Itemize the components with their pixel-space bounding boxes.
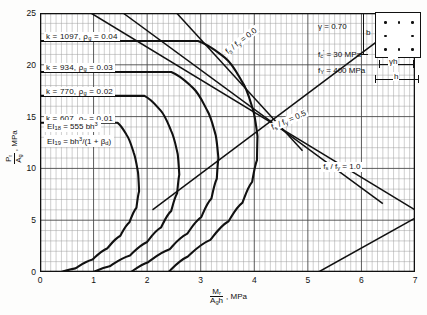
ei-19-rhs: = bh — [63, 137, 79, 146]
x-num-symbol: M — [212, 287, 219, 296]
gamma-value: = 0.70 — [324, 22, 346, 31]
ei-19-annotation: EI19 = bh3/(1 + βd) — [44, 135, 114, 147]
x-tick-label: 0 — [28, 276, 52, 284]
k-label-004: k = 1097, ρg = 0.04 — [44, 32, 120, 41]
k-equation: k = 1097, — [46, 32, 81, 41]
legend-panel: γ = 0.70 fc' = 30 MPa fY = 400 MPa b γh … — [318, 6, 423, 84]
b-dimension-line — [363, 13, 364, 55]
fy-slash: / f — [328, 162, 337, 171]
k-label-003: k = 934, ρg = 0.03 — [44, 63, 115, 72]
y-axis-title: Pr Ag , MPa — [0, 118, 34, 178]
y-tick-label: 20 — [10, 61, 36, 69]
x-axis-ticks: 01234567 — [40, 276, 415, 288]
ei-19-lhs: EI — [47, 137, 55, 146]
legend-fy-row: fY = 400 MPa — [318, 66, 365, 75]
x-den-tail: h — [219, 296, 223, 305]
rho-value: = 0.04 — [92, 32, 118, 41]
gamma-h-label: γh — [388, 57, 398, 66]
ei-19-tail: /(1 + — [82, 137, 100, 146]
rebar-dot — [384, 35, 387, 38]
x-tick-label: 7 — [403, 276, 427, 284]
k-label-002: k = 770, ρg = 0.02 — [44, 87, 115, 96]
y-num-symbol: P — [4, 157, 13, 162]
y-axis-units: , MPa — [10, 130, 19, 151]
ei-18-rhs: = 555 bh — [63, 122, 94, 131]
h-cap-right — [418, 75, 419, 83]
x-axis-denominator: Agh — [208, 297, 225, 305]
fy-subscript: Y — [320, 69, 324, 75]
column-cross-section — [375, 12, 421, 58]
x-axis-units: , MPa — [226, 292, 247, 301]
gamma-h-cap-right — [413, 60, 414, 68]
k-equation: k = 770, — [46, 87, 76, 96]
y-tick-label: 25 — [10, 9, 36, 17]
b-dimension-cap-top — [359, 13, 368, 14]
x-axis-fraction: Mr Agh — [208, 288, 225, 306]
x-tick-label: 4 — [242, 276, 266, 284]
rebar-dot — [411, 35, 414, 38]
x-tick-label: 3 — [189, 276, 213, 284]
y-axis-fraction: Pr Ag — [5, 152, 23, 165]
legend-gamma-row: γ = 0.70 — [318, 22, 347, 31]
legend-fc-row: fc' = 30 MPa — [318, 49, 361, 59]
x-axis-title: Mr Agh , MPa — [172, 288, 282, 306]
fc-prime: ' — [323, 49, 324, 55]
rebar-dot — [384, 48, 387, 51]
ei-18-lhs: EI — [47, 122, 55, 131]
y-axis-denominator: Ag — [15, 152, 23, 165]
rho-value: = 0.02 — [87, 87, 113, 96]
gamma-h-cap-left — [379, 60, 380, 68]
curve-label-fs-fy-1-0: fs / fy = 1.0 — [321, 162, 362, 171]
rho-value: = 0.03 — [87, 63, 113, 72]
rebar-dot — [398, 21, 401, 24]
rebar-dot — [384, 21, 387, 24]
rebar-dot — [411, 48, 414, 51]
h-cap-left — [375, 75, 376, 83]
chart-root: k = 1097, ρg = 0.04k = 934, ρg = 0.03k =… — [0, 0, 427, 315]
ei-18-annotation: EI18 = 555 bh3 — [44, 120, 101, 132]
gamma-symbol: γ — [318, 22, 322, 31]
y-tick-label: 5 — [10, 216, 36, 224]
ratio-value: = 1.0 — [340, 162, 360, 171]
x-tick-label: 2 — [135, 276, 159, 284]
b-dimension-label: b — [366, 28, 370, 37]
h-dimension-label: h — [393, 72, 399, 81]
k-equation: k = 934, — [46, 63, 76, 72]
y-den-subscript: g — [17, 154, 23, 157]
fy-value: = 400 MPa — [326, 66, 365, 75]
ei-18-subscript: 18 — [55, 125, 61, 131]
ei-19-subscript: 19 — [55, 140, 61, 146]
rebar-dot — [398, 48, 401, 51]
y-tick-label: 0 — [10, 268, 36, 276]
y-den-symbol: A — [14, 157, 23, 162]
x-tick-label: 6 — [349, 276, 373, 284]
x-tick-label: 1 — [82, 276, 106, 284]
ei-19-close: ) — [108, 137, 111, 146]
ei-18-exponent: 3 — [95, 121, 98, 127]
rebar-dot — [411, 21, 414, 24]
b-dimension-cap-bottom — [359, 54, 368, 55]
fc-value: = 30 MPa — [326, 50, 360, 59]
x-tick-label: 5 — [296, 276, 320, 284]
